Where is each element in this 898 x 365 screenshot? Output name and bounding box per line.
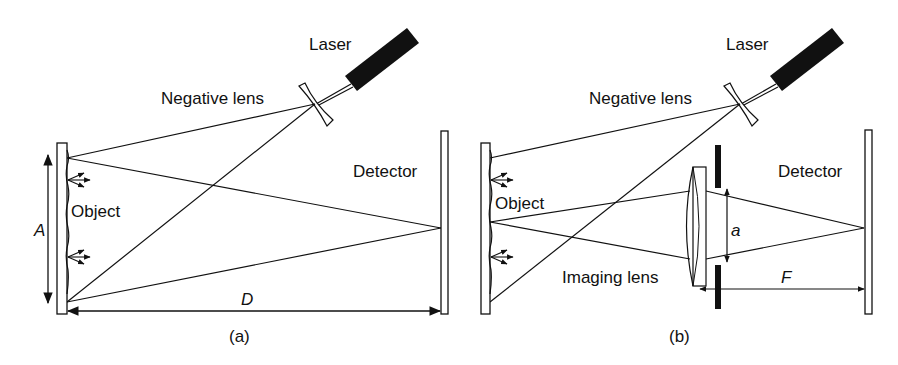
detector-plate xyxy=(865,130,872,314)
object-plate xyxy=(481,143,492,314)
dimension-A-label: A xyxy=(33,221,45,240)
dimension-F-label: F xyxy=(781,268,793,287)
negative-lens-icon xyxy=(724,83,758,126)
caption-b: (b) xyxy=(669,327,690,346)
object-label: Object xyxy=(495,194,544,213)
laser-label: Laser xyxy=(726,35,769,54)
object-label: Object xyxy=(71,202,120,221)
negative-lens-icon xyxy=(299,83,333,126)
negative-lens-label: Negative lens xyxy=(161,89,264,108)
dimension-D-label: D xyxy=(241,290,253,309)
light-rays xyxy=(490,104,864,302)
detector-label: Detector xyxy=(778,162,843,181)
detector-label: Detector xyxy=(353,162,418,181)
caption-a: (a) xyxy=(229,327,250,346)
detector-plate xyxy=(441,131,448,314)
aperture-stop-icon xyxy=(715,145,721,309)
object-plate xyxy=(57,143,69,314)
imaging-lens-label: Imaging lens xyxy=(562,268,658,287)
imaging-lens-icon xyxy=(687,167,707,286)
light-rays xyxy=(67,104,441,302)
negative-lens-label: Negative lens xyxy=(589,89,692,108)
laser-label: Laser xyxy=(309,35,352,54)
holography-setup-diagram: Laser Negative lens Object Detector A D … xyxy=(0,0,898,365)
dimension-a-label: a xyxy=(731,221,740,240)
panel-b: Laser Negative lens Object Detector Imag… xyxy=(481,28,872,346)
panel-a: Laser Negative lens Object Detector A D … xyxy=(33,28,448,346)
